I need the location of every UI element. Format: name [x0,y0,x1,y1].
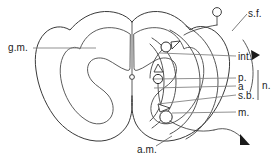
diagram-canvas [0,0,277,164]
label-nerve: n. [262,81,271,91]
sensory-fiber-group [184,8,221,35]
dorsal-root-ganglion-icon [213,8,222,17]
spinal-cord-diagram: g.m. s.f. int. p. a s.b. n. m. a.m. [0,0,277,164]
sf-arrowhead-icon [251,50,260,60]
internuncial-neuron-dendrite-icon [171,41,180,49]
am-arrowhead-icon [240,134,250,145]
central-canal-icon [130,75,135,80]
gray-matter-left-horn [60,28,130,124]
sf-leader-line [232,14,247,31]
label-motor: m. [238,108,249,118]
label-anterior-motor: a.m. [137,145,157,155]
leader-int [160,53,236,56]
posterior-neuron-dendrite-icon [154,64,163,72]
label-gray-matter: g.m. [8,43,28,53]
label-sensory-fiber: s.f. [248,9,262,19]
sf-descending-arc [243,40,253,92]
label-internuncial: int. [238,52,252,62]
leader-p [152,78,236,79]
internuncial-neuron-soma [161,42,171,52]
am-efferent-fiber [214,129,244,140]
cord-outline-right [132,11,230,141]
tract-arc-outer [186,26,218,139]
leader-m [172,112,236,113]
internuncial-axon [150,50,162,78]
label-sensory-branch: s.b. [238,91,255,101]
cord-outline-left [35,11,132,141]
